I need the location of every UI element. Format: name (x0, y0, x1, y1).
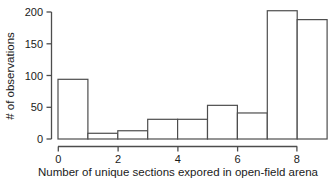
bar-5 (208, 105, 238, 139)
bar-4 (178, 119, 208, 139)
bars-group (58, 11, 327, 139)
bar-6 (237, 113, 267, 139)
bar-1 (88, 133, 118, 139)
x-tick-label-4: 4 (175, 153, 181, 165)
y-tick-label-0: 0 (37, 133, 43, 145)
bar-0 (58, 79, 88, 139)
bar-7 (267, 11, 297, 139)
y-tick-label-50: 50 (31, 101, 43, 113)
y-tick-label-200: 200 (25, 6, 43, 18)
y-axis: 200 150 100 50 0 (25, 6, 52, 145)
plot-canvas: 200 150 100 50 0 # of observations (0, 0, 333, 180)
bar-8 (297, 20, 327, 139)
y-tick-label-150: 150 (25, 38, 43, 50)
x-axis-title: Number of unique sections expored in ope… (38, 166, 319, 178)
y-axis-title: # of observations (4, 32, 16, 120)
x-tick-label-8: 8 (294, 153, 300, 165)
x-tick-label-0: 0 (55, 153, 61, 165)
x-axis: 0 2 4 6 8 (55, 147, 300, 166)
bar-2 (118, 131, 148, 139)
bar-3 (148, 119, 178, 139)
histogram-figure: 200 150 100 50 0 # of observations (0, 0, 333, 180)
x-tick-label-6: 6 (235, 153, 241, 165)
x-tick-label-2: 2 (115, 153, 121, 165)
y-tick-label-100: 100 (25, 70, 43, 82)
